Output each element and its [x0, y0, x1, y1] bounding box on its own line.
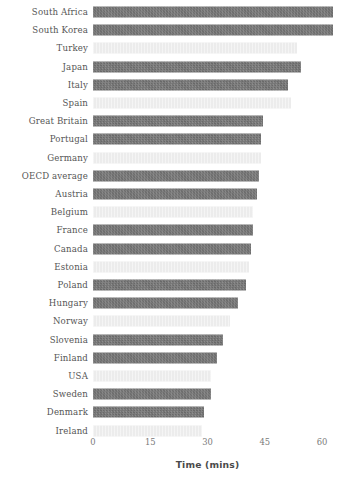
bar-category-label: Belgium: [51, 208, 88, 217]
bar-track: [93, 261, 249, 272]
bar-category-label: Italy: [68, 81, 88, 90]
bar: [93, 116, 263, 127]
bar-track: [93, 61, 301, 72]
bar-track: [93, 298, 238, 309]
x-axis-title: Time (mins): [0, 459, 345, 470]
bar-category-label: Great Britain: [29, 117, 88, 126]
bar-track: [93, 170, 259, 181]
bar-category-label: Norway: [53, 317, 88, 326]
bar: [93, 298, 238, 309]
bar: [93, 170, 259, 181]
bar-chart: South AfricaSouth KoreaTurkeyJapanItalyS…: [0, 0, 345, 481]
bar-category-label: Spain: [62, 99, 88, 108]
bar-row: Poland: [0, 276, 345, 294]
bar: [93, 7, 333, 18]
x-axis: 015304560: [0, 438, 345, 454]
plot-area: South AfricaSouth KoreaTurkeyJapanItalyS…: [0, 0, 345, 440]
bar: [93, 61, 301, 72]
bar-row: Spain: [0, 94, 345, 112]
bar-row: Norway: [0, 312, 345, 330]
bar-row: Turkey: [0, 39, 345, 57]
bar-row: Hungary: [0, 294, 345, 312]
bar-category-label: Ireland: [55, 426, 88, 435]
bar-category-label: OECD average: [22, 172, 88, 181]
bar-category-label: Japan: [63, 62, 88, 71]
bar: [93, 261, 249, 272]
bar-track: [93, 316, 230, 327]
bar-track: [93, 425, 202, 436]
bar: [93, 25, 333, 36]
bar-category-label: Germany: [47, 153, 88, 162]
x-tick-label: 60: [317, 438, 328, 446]
bar-track: [93, 152, 261, 163]
bar-category-label: Sweden: [53, 390, 88, 399]
bar-track: [93, 225, 253, 236]
bar-category-label: Slovenia: [50, 335, 88, 344]
bar: [93, 316, 230, 327]
bar-row: Austria: [0, 185, 345, 203]
bar-row: Japan: [0, 58, 345, 76]
bar-category-label: Estonia: [54, 263, 88, 272]
bar-track: [93, 7, 333, 18]
bar-category-label: Turkey: [57, 44, 88, 53]
bar-row: Canada: [0, 240, 345, 258]
bar-row: Denmark: [0, 403, 345, 421]
x-axis-title-label: Time (mins): [176, 459, 240, 470]
bar-track: [93, 189, 257, 200]
bar-track: [93, 116, 263, 127]
bar: [93, 407, 204, 418]
bar: [93, 371, 211, 382]
bar-category-label: South Korea: [32, 26, 88, 35]
bar: [93, 280, 246, 291]
bar: [93, 207, 253, 218]
bar-track: [93, 371, 211, 382]
bar-track: [93, 407, 204, 418]
bar-row: Portugal: [0, 130, 345, 148]
bar-category-label: Canada: [54, 244, 88, 253]
bar-track: [93, 134, 261, 145]
bar-category-label: Hungary: [49, 299, 88, 308]
bar-row: Sweden: [0, 385, 345, 403]
bar-track: [93, 79, 288, 90]
bar-track: [93, 98, 291, 109]
bar-row: Estonia: [0, 258, 345, 276]
bar-row: Slovenia: [0, 331, 345, 349]
bar-row: Great Britain: [0, 112, 345, 130]
bar-track: [93, 207, 253, 218]
bar-category-label: France: [56, 226, 88, 235]
bar: [93, 189, 257, 200]
bar-track: [93, 280, 246, 291]
bar-row: Ireland: [0, 422, 345, 440]
bar-category-label: Poland: [58, 281, 88, 290]
bar-row: South Africa: [0, 3, 345, 21]
bar-row: Finland: [0, 349, 345, 367]
x-tick-label: 15: [145, 438, 156, 446]
bar: [93, 98, 291, 109]
x-tick-label: 30: [202, 438, 213, 446]
bar: [93, 152, 261, 163]
bar-row: OECD average: [0, 167, 345, 185]
x-tick-label: 45: [259, 438, 270, 446]
bar-track: [93, 25, 333, 36]
bar: [93, 425, 202, 436]
bar-row: USA: [0, 367, 345, 385]
bar: [93, 243, 251, 254]
bar: [93, 334, 223, 345]
bar-row: France: [0, 221, 345, 239]
bar: [93, 225, 253, 236]
bar-row: South Korea: [0, 21, 345, 39]
bar: [93, 43, 297, 54]
bar: [93, 352, 217, 363]
bar-row: Italy: [0, 76, 345, 94]
bar-track: [93, 389, 211, 400]
bar-category-label: Finland: [54, 354, 88, 363]
bar-category-label: South Africa: [32, 8, 88, 17]
bar: [93, 79, 288, 90]
bar-category-label: Denmark: [47, 408, 88, 417]
bar-track: [93, 43, 297, 54]
bar: [93, 389, 211, 400]
bar-category-label: Portugal: [50, 135, 88, 144]
bar-track: [93, 334, 223, 345]
bar-row: Germany: [0, 149, 345, 167]
bar-category-label: Austria: [55, 190, 88, 199]
